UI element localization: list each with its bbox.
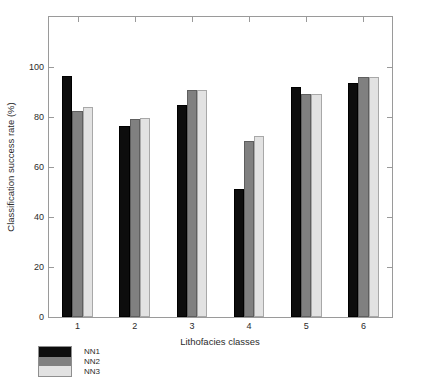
y-tick-label-0: 0 (39, 313, 44, 322)
bar-nn1-class-1 (62, 76, 72, 317)
legend-swatch-nn1 (39, 347, 71, 357)
bar-nn3-class-3 (197, 90, 207, 317)
x-tick-label-4: 4 (247, 322, 252, 331)
x-tick-label-2: 2 (132, 322, 137, 331)
x-tick-label-1: 1 (75, 322, 80, 331)
bar-nn2-class-6 (358, 77, 368, 318)
bar-nn1-class-4 (234, 189, 244, 318)
bar-nn3-class-2 (140, 118, 150, 317)
plot-area: 020406080100 123456 (48, 16, 393, 318)
figure-canvas: 020406080100 123456 Classification succe… (0, 0, 428, 386)
bar-nn2-class-3 (187, 90, 197, 317)
x-tick-label-5: 5 (304, 322, 309, 331)
legend-label-nn3: NN3 (84, 367, 100, 377)
bar-nn2-class-4 (244, 141, 254, 317)
legend-swatch-box (38, 346, 72, 377)
bar-nn1-class-2 (119, 126, 129, 318)
bar-nn3-class-6 (369, 77, 379, 318)
legend: NN1 NN2 NN3 (38, 346, 100, 377)
y-tick-label-20: 20 (34, 263, 44, 272)
legend-swatch-nn2 (39, 357, 71, 367)
bars-layer (49, 17, 392, 317)
bar-nn2-class-1 (72, 111, 82, 317)
legend-swatch-nn3 (39, 366, 71, 376)
x-tick-label-3: 3 (189, 322, 194, 331)
bar-nn3-class-5 (311, 94, 321, 317)
y-tick-0 (49, 317, 54, 318)
x-tick-label-6: 6 (361, 322, 366, 331)
legend-label-nn1: NN1 (84, 346, 100, 356)
x-axis-title: Lithofacies classes (180, 336, 260, 347)
bar-nn1-class-5 (291, 87, 301, 317)
y-axis-title: Classification success rate (%) (5, 102, 16, 231)
y-tick-label-60: 60 (34, 163, 44, 172)
bar-nn1-class-6 (348, 83, 358, 317)
legend-label-nn2: NN2 (84, 356, 100, 366)
y-tick-label-40: 40 (34, 213, 44, 222)
y-tick-label-80: 80 (34, 113, 44, 122)
bar-nn3-class-4 (254, 136, 264, 317)
bar-nn3-class-1 (83, 107, 93, 318)
bar-nn2-class-5 (301, 94, 311, 317)
y-tick-label-100: 100 (29, 63, 44, 72)
bar-nn1-class-3 (177, 105, 187, 318)
bar-nn2-class-2 (130, 119, 140, 318)
legend-labels: NN1 NN2 NN3 (84, 346, 100, 377)
y-tick-right-0 (387, 317, 392, 318)
